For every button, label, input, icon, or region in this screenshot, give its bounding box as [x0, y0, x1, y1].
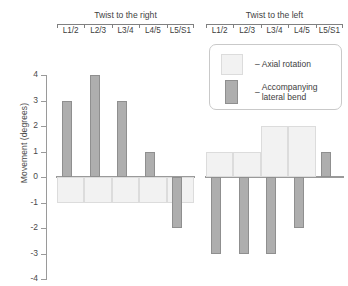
y-tick-label-wrap: 2	[14, 121, 38, 131]
bar-axial-rotation-left-L2-3	[84, 177, 111, 203]
bar-lateral-bend-right-L1-2	[211, 177, 221, 254]
y-tick-label-1: 1	[16, 147, 38, 156]
level-cell-right-L3-4: L3/4	[261, 24, 288, 38]
bar-group-left-L5-S1	[167, 75, 194, 279]
y-tick--1	[41, 203, 47, 204]
y-tick-label-wrap: -3	[14, 249, 38, 259]
y-tick-label-wrap: 3	[14, 96, 38, 106]
bar-axial-rotation-right-L3-4	[261, 126, 288, 177]
chart-legend: – Axial rotation – Accompanying lateral …	[209, 44, 342, 110]
y-tick-3	[41, 101, 47, 102]
y-tick-label--3: -3	[16, 249, 38, 258]
y-tick-label-3: 3	[16, 96, 38, 105]
y-tick-4	[41, 75, 47, 76]
legend-dash-lateral-bend: –	[255, 88, 260, 97]
plot-area-left	[57, 75, 194, 279]
level-header-row-left: L1/2L2/3L3/4L4/5L5/S1	[57, 24, 194, 38]
bar-group-left-L1-2	[57, 75, 84, 279]
y-tick-0	[41, 177, 47, 178]
legend-entry-axial-rotation: – Axial rotation	[210, 50, 341, 78]
bar-axial-rotation-left-L4-5	[139, 177, 166, 203]
y-tick-label-2: 2	[16, 121, 38, 130]
level-cell-left-L1-2: L1/2	[57, 24, 84, 38]
panel-twist-right: Twist to the right L1/2L2/3L3/4L4/5L5/S1	[57, 0, 194, 286]
y-tick--4	[41, 279, 47, 280]
level-cell-left-L2-3: L2/3	[84, 24, 111, 38]
panel-title-twist-left: Twist to the left	[206, 10, 343, 20]
bar-lateral-bend-left-L2-3	[90, 75, 100, 177]
bar-lateral-bend-right-L2-3	[239, 177, 249, 254]
y-tick-label-wrap: 0	[14, 172, 38, 182]
y-tick-label-wrap: -1	[14, 198, 38, 208]
bar-group-left-L2-3	[84, 75, 111, 279]
y-tick-label-0: 0	[16, 172, 38, 181]
level-row-endcap	[193, 24, 194, 28]
bar-axial-rotation-left-L1-2	[57, 177, 84, 203]
bar-lateral-bend-right-L4-5	[294, 177, 304, 228]
bar-lateral-bend-left-L4-5	[145, 152, 155, 178]
level-cell-right-L2-3: L2/3	[233, 24, 260, 38]
y-tick-label-wrap: 4	[14, 70, 38, 80]
level-cell-right-L5-S1: L5/S1	[316, 24, 343, 38]
bar-lateral-bend-right-L5-S1	[321, 152, 331, 178]
y-tick-label--4: -4	[16, 274, 38, 283]
y-tick-1	[41, 152, 47, 153]
bar-axial-rotation-right-L4-5	[288, 126, 315, 177]
legend-label-lateral-bend: Accompanying lateral bend	[262, 82, 318, 102]
y-tick-label-4: 4	[16, 70, 38, 79]
bar-lateral-bend-left-L3-4	[117, 101, 127, 178]
y-tick-label-wrap: -2	[14, 223, 38, 233]
bar-lateral-bend-left-L5-S1	[172, 177, 182, 228]
bar-lateral-bend-left-L1-2	[62, 101, 72, 178]
y-tick--3	[41, 254, 47, 255]
level-cell-left-L5-S1: L5/S1	[167, 24, 194, 38]
level-cell-left-L4-5: L4/5	[139, 24, 166, 38]
y-axis-title: Movement (degrees)	[16, 0, 32, 286]
bar-axial-rotation-left-L3-4	[112, 177, 139, 203]
y-tick-label-wrap: 1	[14, 147, 38, 157]
level-row-endcap	[342, 24, 343, 28]
y-tick-label--2: -2	[16, 223, 38, 232]
bar-axial-rotation-right-L2-3	[233, 152, 260, 178]
bar-axial-rotation-right-L1-2	[206, 152, 233, 178]
chart-figure: Movement (degrees) 43210-1-2-3-4 Twist t…	[0, 0, 348, 286]
legend-entry-lateral-bend: – Accompanying lateral bend	[210, 78, 341, 106]
legend-swatch-lateral-bend-icon	[225, 80, 238, 104]
bar-group-left-L3-4	[112, 75, 139, 279]
legend-dash-axial-rotation: –	[255, 60, 260, 69]
bar-group-left-L4-5	[139, 75, 166, 279]
level-cell-left-L3-4: L3/4	[112, 24, 139, 38]
level-header-row-right: L1/2L2/3L3/4L4/5L5/S1	[206, 24, 343, 38]
bar-lateral-bend-right-L3-4	[266, 177, 276, 254]
y-tick-2	[41, 126, 47, 127]
legend-label-axial-rotation: Axial rotation	[262, 59, 311, 69]
legend-swatch-axial-rotation-icon	[221, 54, 243, 75]
y-tick--2	[41, 228, 47, 229]
level-cell-right-L1-2: L1/2	[206, 24, 233, 38]
panel-title-twist-right: Twist to the right	[57, 10, 194, 20]
panel-twist-left: Twist to the left L1/2L2/3L3/4L4/5L5/S1	[206, 0, 343, 286]
y-tick-label-wrap: -4	[14, 274, 38, 284]
y-tick-label--1: -1	[16, 198, 38, 207]
level-cell-right-L4-5: L4/5	[288, 24, 315, 38]
